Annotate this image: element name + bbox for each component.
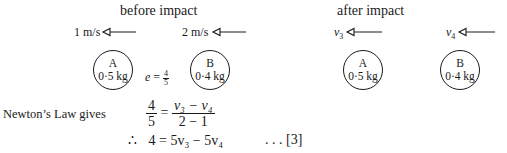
ball-a-mass: 0·5 kg <box>344 70 382 83</box>
equation-reference: . . . [3] <box>265 132 302 148</box>
denominator: 5 <box>163 79 169 87</box>
ball-b-label: B <box>191 57 229 70</box>
ball-b-final-velocity: v4 <box>446 25 455 41</box>
velocity-arrows <box>0 0 507 153</box>
therefore-symbol: ∴ <box>128 133 137 148</box>
ball-b-initial-velocity: 2 m/s <box>182 25 208 40</box>
ball-a-before: A 0·5 kg <box>93 50 133 90</box>
equation-line-1: 4 5 = v₃ − v₄ 2 − 1 <box>146 98 215 129</box>
equals: = <box>153 70 160 84</box>
rhs-fraction: v₃ − v₄ 2 − 1 <box>172 98 215 129</box>
equation-text: 4 = 5v₃ − 5v₄ <box>149 133 224 148</box>
denominator: 5 <box>146 114 157 129</box>
coefficient-of-restitution: e = 4 5 <box>145 70 169 87</box>
ball-b-mass: 0·4 kg <box>191 70 229 83</box>
after-impact-title: after impact <box>337 3 404 19</box>
ball-b-before: B 0·4 kg <box>190 50 230 90</box>
ball-b-label: B <box>441 57 479 70</box>
ball-a-after: A 0·5 kg <box>343 50 383 90</box>
restitution-fraction: 4 5 <box>163 70 169 87</box>
equals: = <box>161 105 169 120</box>
ball-b-mass: 0·4 kg <box>441 70 479 83</box>
numerator: 4 <box>146 98 157 114</box>
subscript: 3 <box>339 32 343 41</box>
ball-b-after: B 0·4 kg <box>440 50 480 90</box>
lhs-fraction: 4 5 <box>146 98 157 129</box>
ball-a-label: A <box>344 57 382 70</box>
denominator: 2 − 1 <box>172 114 215 129</box>
ball-a-final-velocity: v3 <box>334 25 343 41</box>
before-impact-title: before impact <box>120 3 197 19</box>
ball-a-initial-velocity: 1 m/s <box>74 25 100 40</box>
numerator: v₃ − v₄ <box>172 98 215 114</box>
equation-line-2: ∴ 4 = 5v₃ − 5v₄ <box>128 132 223 149</box>
newtons-law-label: Newton’s Law gives <box>3 107 106 122</box>
ball-a-label: A <box>94 57 132 70</box>
ball-a-mass: 0·5 kg <box>94 70 132 83</box>
subscript: 4 <box>451 32 455 41</box>
e-symbol: e <box>145 70 150 84</box>
